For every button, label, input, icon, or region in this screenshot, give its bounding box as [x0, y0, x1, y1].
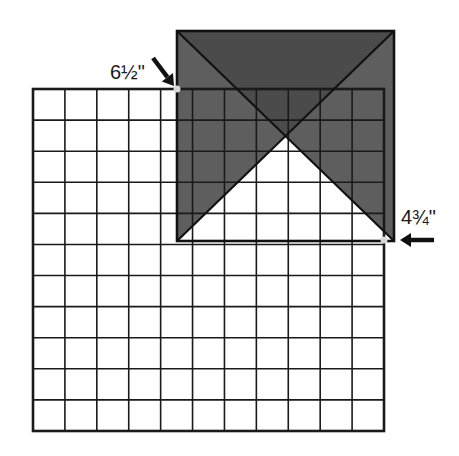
- label-six-and-half-inches: 6½": [110, 62, 145, 82]
- left-arrow: [400, 233, 434, 247]
- top-left-marker: [174, 86, 181, 93]
- diagram-canvas: [0, 0, 459, 456]
- bottom-right-marker: [381, 237, 388, 244]
- arrow-head-icon: [400, 233, 411, 247]
- diagonal-arrow: [153, 58, 174, 86]
- arrow-shaft: [153, 58, 167, 77]
- label-four-and-three-quarter-inches: 4¾": [401, 207, 436, 227]
- quilt-block-diagram: 6½" 4¾": [0, 0, 459, 456]
